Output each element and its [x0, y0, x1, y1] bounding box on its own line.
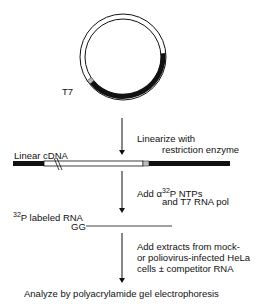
arrow-analyze — [119, 233, 125, 283]
step-extract-line3: cells ± competitor RNA — [137, 263, 234, 274]
step-transcribe-line2: and T7 RNA pol — [162, 196, 229, 207]
linear-cdna-label: Linear cDNA — [14, 150, 68, 161]
step-extract-line2: or poliovirus-infected HeLa — [137, 252, 250, 263]
insert-arc — [90, 53, 166, 99]
step-extract-line1: Add extracts from mock- — [137, 241, 240, 252]
isotope-superscript: 32 — [13, 211, 21, 218]
t7-label: T7 — [62, 86, 73, 97]
isotope-superscript: 32 — [162, 187, 170, 194]
arrow-linearize — [119, 118, 125, 155]
gg-end-label: GG — [71, 221, 86, 232]
arrow-transcribe — [119, 171, 125, 213]
step-linearize-line1: Linearize with — [137, 133, 195, 144]
step-linearize-line2: restriction enzyme — [162, 144, 239, 155]
final-step-label: Analyze by polyacrylamide gel electropho… — [24, 288, 219, 299]
add-text: Add — [137, 188, 157, 199]
plasmid-circle — [80, 14, 166, 100]
